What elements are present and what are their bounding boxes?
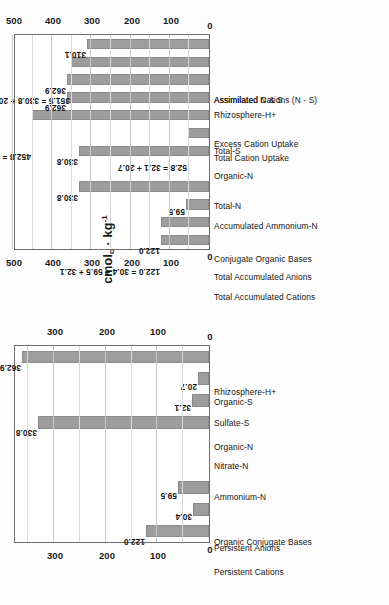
category-label-text: Conjugate Organic Bases [214,254,312,264]
category-label: Assimilated Cations (N - S) [212,34,362,52]
axis-tick-label: 0 [207,251,212,262]
bar-value-label: 59.5 [168,208,185,218]
gridline [182,346,183,542]
category-label-text: Sulfate-S [214,418,249,428]
bar-slot: 330.8 [15,411,209,433]
gridline [188,35,189,249]
category-label-text: Organic-N [214,442,253,452]
bar [193,503,209,516]
category-label-text: Rhizosphere-H+ [214,110,276,120]
category-label-text: Total Accumulated Anions [214,272,312,282]
bar-value-label: 122.0 [124,537,145,547]
bar-value-label: 20.7 [181,382,198,392]
bar [79,146,209,156]
axis-tick-label: 400 [45,15,61,26]
axis-tick-label: 100 [150,326,166,337]
bar-slot: 351.5 = 330.8 + 20.7 [15,53,209,71]
bar [79,181,209,191]
value-axis-left-b: 0100200300 [14,545,210,575]
axis-tick-label: 200 [99,549,115,560]
bar-group-b: 122.030.459.5330.832.120.7362.9 [15,346,209,542]
bar-value-label: 362.9 [44,85,65,95]
category-label: Rhizosphere-H+ [212,70,362,88]
bar-slot [15,433,209,455]
axis-tick-label: 100 [163,15,179,26]
bar-slot: 20.7 [15,368,209,390]
bar [198,372,209,385]
bar-value-label: 330.8 [57,157,78,167]
gridline [105,346,106,542]
bar [192,394,209,407]
category-label-text: Total-N [214,201,241,211]
axis-title-sub-b: c [107,249,116,254]
bar-slot: 122.0 [15,520,209,542]
category-label-text: Total Accumulated Cations [214,292,315,302]
gridline [12,35,13,249]
category-label-text: Assimilated Cations (N - S) [214,95,317,105]
axis-tick-label: 200 [124,256,140,267]
axis-title-main-b: cmol [101,254,115,284]
gridline [53,346,54,542]
axis-tick-label: 0 [207,20,212,31]
axis-tick-label: 200 [124,15,140,26]
category-labels-a: Total Accumulated CationsTotal Accumulat… [212,34,362,250]
axis-title-sup-b: -1 [100,215,109,223]
value-axis-right-a: 0100200300400500 [14,2,210,32]
category-label-text: Accumulated Ammonium-N [214,221,318,231]
category-label: Total-N [212,178,362,196]
axis-tick-label: 400 [45,256,61,267]
bar-value-label: 362.9 [0,362,21,372]
axis-tick-label: 300 [47,549,63,560]
category-label: Rhizosphere-H+ [212,345,362,367]
gridline [149,35,150,249]
axis-tick-label: 300 [84,15,100,26]
bar-value-label: 52.8 = 32.1 + 20.7 [118,163,187,173]
category-label-text: Persistent Cations [214,567,284,577]
gridline [156,346,157,542]
category-labels-b: Persistent CationsPersistent AnionsOrgan… [212,345,362,543]
bar-slot: 59.5 [15,477,209,499]
category-label: Assimilated N & S [212,52,362,70]
bar-slot: 59.5 [15,196,209,214]
category-label: Persistent Anions [212,499,362,521]
category-label-text: Organic Conjugate Bases [214,537,312,547]
bar-slot: 362.9 [15,71,209,89]
bar-slot [15,455,209,477]
gridline [169,35,170,249]
bar-value-label: 452.8 = 122.0 + 330.8 [0,152,31,162]
axis-title-b: cmolc · kg-1 [100,215,116,284]
axis-tick-label: 500 [6,256,22,267]
bar-slot: 330.8 [15,142,209,160]
category-label: Total Accumulated Cations [212,232,362,250]
chart-panel-b: 0100200300 122.030.459.5330.832.120.7362… [0,311,365,605]
axis-tick-label: 300 [47,326,63,337]
category-label-text: Excess Cation Uptake [214,139,298,149]
bar-slot: 330.8 [15,178,209,196]
category-label-text: Organic-S [214,397,253,407]
bar [38,416,209,429]
category-label-text: Total Cation Uptake [214,153,289,163]
gridline [71,35,72,249]
bar-value-label: 351.5 = 330.8 + 20.7 [0,96,70,106]
gridline [90,35,91,249]
bar-value-label: 330.8 [57,192,78,202]
gridline [79,346,80,542]
bar [188,128,209,138]
axis-tick-label: 100 [150,549,166,560]
axis-tick-label: 500 [6,15,22,26]
bar-slot: 310.1 [15,35,209,53]
plot-area-b: 122.030.459.5330.832.120.7362.9 [14,345,210,543]
bar-slot: 362.9 [15,346,209,368]
axis-tick-label: 100 [163,256,179,267]
axis-tick-label: 0 [207,544,212,555]
axis-tick-label: 0 [207,331,212,342]
gridline [131,346,132,542]
axis-tick-label: 300 [84,256,100,267]
bar-slot: 30.4 [15,498,209,520]
figure-canvas: 0100200300400500 122.0122.0 = 30.4 + 59.… [0,0,389,605]
category-label: Organic-S [212,367,362,389]
gridline [27,346,28,542]
bar-value-label: 30.4 [176,513,193,523]
bar-slot: 52.8 = 32.1 + 20.7 [15,124,209,142]
category-label-text: Rhizosphere-H+ [214,387,276,397]
